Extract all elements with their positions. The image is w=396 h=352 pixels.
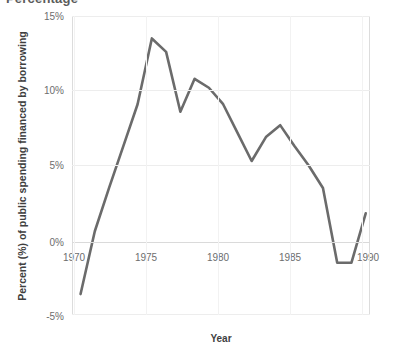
- y-tick-label-10: 10%: [4, 85, 64, 96]
- gridline-y-15: [72, 16, 370, 17]
- gridline-y-5: [72, 165, 370, 166]
- gridline-y-neg5: [72, 314, 370, 315]
- x-axis-title: Year: [72, 333, 370, 344]
- gridline-x-1975: [146, 16, 147, 315]
- gridline-x-1990: [362, 16, 363, 315]
- gridline-x-1980: [218, 16, 219, 315]
- y-tick-label-5: 5%: [4, 160, 64, 171]
- y-tick-label-0: 0%: [4, 237, 64, 248]
- gridline-y-zero: [72, 242, 370, 243]
- y-tick-label-15: 15%: [4, 11, 64, 22]
- gridline-x-1985: [290, 16, 291, 315]
- cropped-chart-title: Percentage: [6, 0, 78, 6]
- gridline-x-1970: [74, 16, 75, 315]
- chart-figure: Percentage Percent (%) of public spendin…: [0, 0, 396, 352]
- gridline-y-10: [72, 90, 370, 91]
- plot-area: [72, 16, 370, 315]
- y-tick-label-neg5: -5%: [4, 311, 64, 322]
